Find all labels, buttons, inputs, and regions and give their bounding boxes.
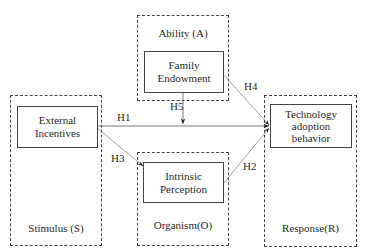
edge-label-h4: H4 <box>244 80 257 92</box>
intrinsic-perception-label: Intrinsic Perception <box>160 170 207 196</box>
node-intrinsic-perception: Intrinsic Perception <box>143 162 224 203</box>
node-family-endowment: Family Endowment <box>144 51 224 93</box>
node-technology-adoption: Technology adoption behavior <box>270 104 352 148</box>
edge-label-h3: H3 <box>111 152 124 164</box>
family-endowment-label: Family Endowment <box>157 59 210 85</box>
node-external-incentives: External Incentives <box>17 106 98 148</box>
edge-label-h2: H2 <box>243 160 256 172</box>
external-incentives-label: External Incentives <box>35 114 80 140</box>
edge-h2 <box>223 128 269 184</box>
edge-label-h5: H5 <box>170 100 183 112</box>
edge-label-h1: H1 <box>117 111 130 123</box>
technology-adoption-label: Technology adoption behavior <box>285 108 337 144</box>
